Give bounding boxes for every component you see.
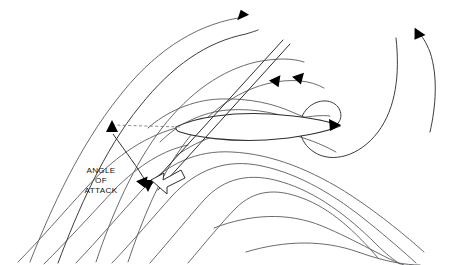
diagram-canvas: ANGLE OF ATTACK (0, 0, 450, 265)
aoa-label-line-3: ATTACK (85, 186, 118, 195)
aoa-label-line-1: ANGLE (86, 166, 115, 175)
aoa-label-line-2: OF (95, 176, 107, 185)
airfoil-angle-of-attack-diagram: ANGLE OF ATTACK (0, 0, 450, 265)
